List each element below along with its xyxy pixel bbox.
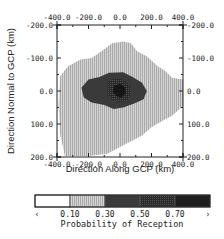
y-tick-label-left: -200.0 bbox=[26, 21, 54, 30]
y-tick-label-right: -100.0 bbox=[187, 54, 215, 63]
y-tick-label-right: -200.0 bbox=[187, 21, 215, 30]
colorbar-swatch bbox=[175, 195, 210, 207]
colorbar-swatch bbox=[35, 195, 70, 207]
colorbar-tick-label: 0.30 bbox=[95, 210, 114, 219]
colorbar-tick-label: 0.10 bbox=[60, 210, 79, 219]
colorbar-title: Probability of Reception bbox=[61, 219, 184, 229]
colorbar-tick-label: › bbox=[206, 210, 211, 219]
y-tick-label-right: 200.0 bbox=[187, 153, 210, 162]
x-axis-label: Direction Along GCP (km) bbox=[66, 163, 175, 174]
colorbar-swatch bbox=[140, 195, 175, 207]
x-tick-label-top: 0.0 bbox=[113, 13, 127, 22]
colorbar-labels: ‹0.100.300.500.70› bbox=[35, 210, 211, 219]
y-tick-label-left: 200.0 bbox=[30, 153, 53, 162]
probability-regions bbox=[59, 42, 183, 157]
chart-svg: -400.0-400.0-200.0-200.00.00.0200.0200.0… bbox=[0, 0, 224, 239]
y-tick-label-left: 100.0 bbox=[30, 120, 53, 129]
colorbar-tick-label: 0.50 bbox=[130, 210, 149, 219]
colorbar-tick-label: ‹ bbox=[35, 210, 40, 219]
colorbar-tick-label: 0.70 bbox=[165, 210, 184, 219]
y-tick-label-right: 100.0 bbox=[187, 120, 210, 129]
y-tick-label-right: 0.0 bbox=[187, 87, 201, 96]
y-axis-label: Direction Normal to GCP (km) bbox=[5, 28, 16, 154]
x-tick-label-top: 200.0 bbox=[140, 13, 163, 22]
y-tick-label-left: 0.0 bbox=[39, 87, 53, 96]
colorbar-swatch bbox=[105, 195, 140, 207]
colorbar bbox=[35, 195, 210, 207]
colorbar-swatch bbox=[70, 195, 105, 207]
y-tick-label-left: -100.0 bbox=[26, 54, 54, 63]
x-tick-label-top: -200.0 bbox=[75, 13, 103, 22]
